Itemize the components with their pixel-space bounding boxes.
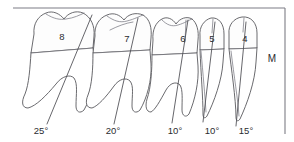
- tooth-7: 7 20°: [86, 14, 151, 136]
- tooth-5-number: 5: [209, 33, 214, 44]
- tooth-4-root: [229, 48, 257, 121]
- tooth-4: 4 15°: [229, 17, 257, 136]
- tooth-7-angle-label: 20°: [106, 125, 121, 136]
- tooth-4-angle-label: 15°: [239, 125, 254, 136]
- tooth-5-angle-label: 10°: [205, 125, 220, 136]
- dental-inclination-figure: 8 25° 7 20° 6 10°: [0, 0, 294, 142]
- tooth-8-roots: [23, 48, 96, 112]
- tooth-8-number: 8: [59, 31, 64, 42]
- tooth-6-roots: [146, 53, 198, 116]
- tooth-7-crown: [93, 14, 151, 53]
- tooth-8: 8 25°: [23, 12, 96, 136]
- tooth-6-angle-label: 10°: [168, 125, 183, 136]
- tooth-diagram-canvas: 8 25° 7 20° 6 10°: [0, 0, 294, 142]
- tooth-4-number: 4: [242, 33, 247, 44]
- tooth-6-crown: [152, 18, 198, 55]
- tooth-6-number: 6: [180, 33, 185, 44]
- tooth-6: 6 10°: [146, 18, 198, 136]
- mesial-side-marker: M: [268, 53, 276, 64]
- tooth-7-number: 7: [124, 33, 129, 44]
- tooth-8-angle-label: 25°: [34, 125, 49, 136]
- tooth-5: 5 10°: [200, 18, 224, 136]
